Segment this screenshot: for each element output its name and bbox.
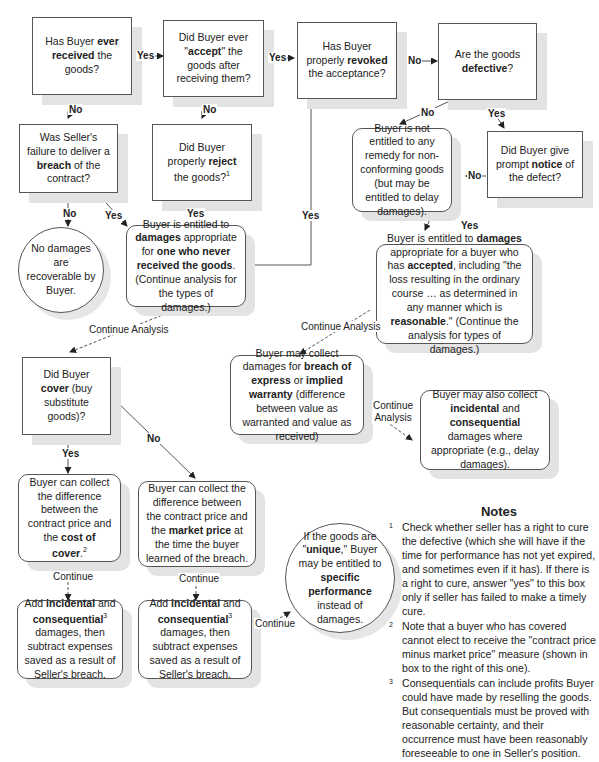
edge-label-no: No (407, 55, 422, 66)
node-defective: Are the goods defective? (438, 23, 537, 100)
node-notice: Did Buyer give prompt notice of the defe… (487, 131, 583, 198)
note-item: 2Note that a buyer who has covered canno… (402, 620, 596, 676)
edge-label-yes: Yes (104, 210, 123, 221)
edge-label-yes: Yes (301, 210, 320, 221)
edge-label-no: No (146, 433, 161, 444)
edge-label-continue-analysis: Continue Analysis (300, 321, 382, 332)
edge-label-no: No (467, 170, 482, 181)
node-reject: Did Buyer properly reject the goods?1 (152, 124, 252, 201)
node-add-incidental-2: Add incidental and consequential3 damage… (138, 600, 252, 679)
node-no-remedy: Buyer is not entitled to any remedy for … (352, 128, 452, 212)
node-add-incidental-1: Add incidental and consequential3 damage… (17, 600, 123, 679)
node-cover: Did Buyer cover (buy substitute goods)? (22, 357, 111, 435)
edge-label-continue: Continue (254, 618, 296, 629)
node-warranty: Buyer may collect damages for breach of … (230, 355, 364, 435)
note-item: 1Check whether seller has a right to cur… (402, 521, 596, 619)
node-unique: If the goods are "unique," Buyer may be … (285, 523, 395, 633)
edge-label-no: No (62, 208, 77, 219)
edge-label-yes: Yes (136, 50, 155, 61)
edge-label-no: No (420, 107, 435, 118)
edge-label-continue-analysis: Continue Analysis (88, 324, 170, 335)
node-breach: Was Seller's failure to deliver a breach… (19, 124, 118, 193)
node-accept: Did Buyer ever "accept" the goods after … (163, 20, 264, 97)
node-ever-received: Has Buyer ever received the goods? (32, 17, 132, 95)
edge-label-yes: Yes (61, 448, 80, 459)
notes-section: Notes 1Check whether seller has a right … (402, 503, 596, 762)
node-market-price: Buyer can collect the difference between… (138, 481, 256, 567)
edge-label-yes: Yes (186, 208, 205, 219)
edge-label-yes: Yes (487, 108, 506, 119)
edge-label-no: No (202, 104, 217, 115)
node-accepted-damages: Buyer is entitled to damages appropriate… (376, 244, 533, 344)
node-cost-of-cover: Buyer can collect the difference between… (18, 474, 121, 562)
node-incidental-also: Buyer may also collect incidental and co… (420, 390, 550, 470)
edge-label-no: No (68, 104, 83, 115)
edge-label-continue: Continue (52, 571, 94, 582)
node-revoked: Has Buyer properly revoked the acceptanc… (297, 22, 397, 99)
edge-label-yes: Yes (460, 220, 479, 231)
node-no-damages: No damages are recoverable by Buyer. (18, 227, 104, 313)
note-item: 3Consequentials can include profits Buye… (402, 677, 596, 761)
node-never-received-damages: Buyer is entitled to damages appropriate… (126, 225, 246, 307)
edge-label-continue-analysis: ContinueAnalysis (372, 400, 414, 424)
edge-label-yes: Yes (268, 52, 287, 63)
edge-label-continue: Continue (178, 573, 220, 584)
notes-title: Notes (402, 503, 596, 520)
